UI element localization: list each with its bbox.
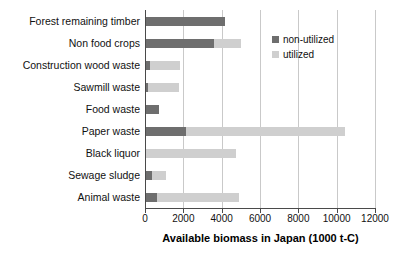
gridline-10000 bbox=[337, 10, 338, 208]
legend-label-utilized: utilized bbox=[283, 48, 314, 61]
plot-right-border bbox=[375, 10, 376, 209]
bar-segment-utilized[interactable] bbox=[150, 61, 180, 70]
x-tick-label-2000: 2000 bbox=[172, 213, 194, 225]
legend-item-utilized[interactable]: utilized bbox=[272, 48, 334, 61]
category-label: Black liquor bbox=[86, 147, 140, 159]
x-tick-label-10000: 10000 bbox=[323, 213, 351, 225]
category-label: Non food crops bbox=[69, 37, 140, 49]
bar-segment-non-utilized[interactable] bbox=[146, 193, 157, 202]
bar-segment-non-utilized[interactable] bbox=[146, 105, 159, 114]
gridline-6000 bbox=[260, 10, 261, 208]
stacked-bar[interactable] bbox=[146, 83, 179, 92]
stacked-bar[interactable] bbox=[146, 171, 166, 180]
category-label: Sawmill waste bbox=[73, 81, 140, 93]
category-label: Paper waste bbox=[82, 125, 140, 137]
stacked-bar[interactable] bbox=[146, 61, 180, 70]
category-label: Sewage sludge bbox=[68, 169, 140, 181]
x-axis-title: Available biomass in Japan (1000 t-C) bbox=[145, 232, 376, 244]
bar-segment-utilized[interactable] bbox=[157, 193, 239, 202]
category-label: Construction wood waste bbox=[23, 59, 140, 71]
legend-item-non-utilized[interactable]: non-utilized bbox=[272, 33, 334, 46]
x-tick-label-8000: 8000 bbox=[287, 213, 309, 225]
legend-swatch-nonutilized-icon bbox=[272, 36, 279, 43]
category-label: Forest remaining timber bbox=[29, 15, 140, 27]
stacked-bar[interactable] bbox=[146, 39, 241, 48]
bar-segment-non-utilized[interactable] bbox=[146, 127, 186, 136]
x-tick-label-4000: 4000 bbox=[211, 213, 233, 225]
bar-segment-non-utilized[interactable] bbox=[146, 39, 214, 48]
x-tick-label-0: 0 bbox=[142, 213, 148, 225]
legend-swatch-utilized-icon bbox=[272, 51, 279, 58]
legend: non-utilized utilized bbox=[272, 33, 334, 63]
category-label: Food waste bbox=[86, 103, 140, 115]
x-tick-label-12000: 12000 bbox=[361, 213, 389, 225]
bar-segment-utilized[interactable] bbox=[214, 39, 241, 48]
bar-segment-utilized[interactable] bbox=[148, 83, 179, 92]
x-tick-label-6000: 6000 bbox=[249, 213, 271, 225]
bar-chart: 0 2000 4000 6000 8000 10000 12000 Forest… bbox=[0, 0, 406, 260]
bar-segment-utilized[interactable] bbox=[152, 171, 166, 180]
stacked-bar[interactable] bbox=[146, 149, 236, 158]
bar-segment-utilized[interactable] bbox=[146, 149, 236, 158]
bar-segment-utilized[interactable] bbox=[186, 127, 345, 136]
stacked-bar[interactable] bbox=[146, 105, 159, 114]
stacked-bar[interactable] bbox=[146, 17, 225, 26]
category-label: Animal waste bbox=[78, 191, 140, 203]
bar-segment-non-utilized[interactable] bbox=[146, 17, 225, 26]
legend-label-non-utilized: non-utilized bbox=[283, 33, 334, 46]
stacked-bar[interactable] bbox=[146, 127, 345, 136]
stacked-bar[interactable] bbox=[146, 193, 239, 202]
